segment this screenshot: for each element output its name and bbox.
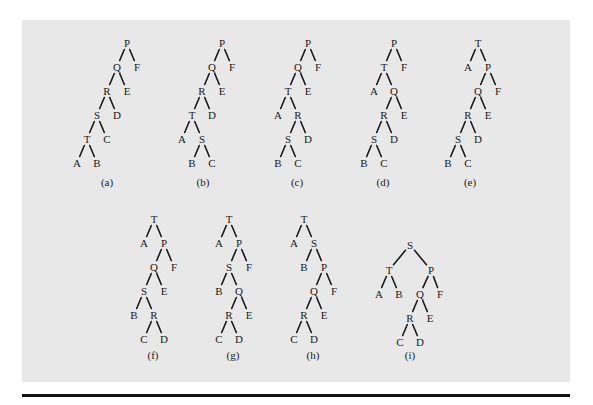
tree-node-S: S (407, 239, 413, 251)
tree-edge (157, 321, 162, 332)
tree-edge (317, 249, 322, 260)
tree-edge (367, 145, 372, 156)
tree-node-E: E (161, 285, 168, 297)
tree-node-D: D (416, 336, 424, 348)
tree-node-D: D (310, 333, 318, 345)
tree-edge (471, 97, 476, 108)
tree-node-F: F (495, 85, 501, 97)
tree-edge (382, 276, 387, 287)
tree-node-R: R (300, 309, 308, 321)
tree-node-P: P (161, 237, 167, 249)
tree-edge (461, 145, 466, 156)
tree-edge (491, 73, 496, 84)
tree-node-Q: Q (416, 288, 424, 300)
tree-node-E: E (246, 309, 253, 321)
tree-edge (232, 321, 237, 332)
tree-edge (225, 49, 230, 60)
tree-node-R: R (294, 109, 302, 121)
tree-node-F: F (437, 288, 443, 300)
tree-node-A: A (178, 133, 186, 145)
tree-edge (451, 145, 456, 156)
tree-edge (100, 121, 105, 132)
tree-edge (481, 49, 486, 60)
tree-node-P: P (219, 37, 225, 49)
tree-edge (147, 297, 152, 308)
tree-edge (397, 97, 402, 108)
tree-node-D: D (474, 133, 482, 145)
tree-edge (222, 321, 227, 332)
tree-edge (397, 49, 402, 60)
tree-edge (110, 73, 115, 84)
tree-edge (195, 145, 200, 156)
tree-edge (222, 273, 227, 284)
tree-edge (157, 249, 162, 260)
tree-node-C: C (140, 333, 147, 345)
tree-node-D: D (160, 333, 168, 345)
tree-node-D: D (304, 133, 312, 145)
tree-node-Q: Q (208, 61, 216, 73)
tree-node-S: S (285, 133, 291, 145)
tree-edge (413, 324, 418, 335)
tree-node-R: R (406, 312, 414, 324)
tree-node-E: E (401, 109, 408, 121)
tree-node-A: A (370, 85, 378, 97)
tree-edge (157, 273, 162, 284)
tree-caption: (e) (464, 176, 477, 189)
tree-edge (394, 250, 406, 264)
tree-c: PQFTEARSDBC(c) (274, 37, 321, 189)
tree-edge (297, 321, 302, 332)
tree-edge (291, 73, 296, 84)
tree-node-S: S (455, 133, 461, 145)
tree-edge (403, 324, 408, 335)
tree-g: TAPSFBQRECD(g) (215, 213, 253, 362)
tree-node-C: C (215, 333, 222, 345)
tree-edge (147, 225, 152, 236)
tree-node-E: E (124, 85, 131, 97)
tree-edge (232, 249, 237, 260)
tree-edge (80, 145, 85, 156)
tree-node-B: B (395, 288, 402, 300)
tree-caption: (h) (307, 349, 320, 362)
tree-edge (281, 145, 286, 156)
tree-edge (100, 97, 105, 108)
tree-edge (387, 121, 392, 132)
tree-edge (215, 49, 220, 60)
tree-edge (195, 97, 200, 108)
tree-edge (157, 225, 162, 236)
tree-node-S: S (311, 237, 317, 249)
tree-node-A: A (464, 61, 472, 73)
tree-node-P: P (485, 61, 491, 73)
tree-caption: (i) (405, 349, 416, 362)
tree-node-Q: Q (390, 85, 398, 97)
tree-edge (311, 49, 316, 60)
tree-edge (387, 73, 392, 84)
tree-node-T: T (226, 213, 233, 225)
tree-node-Q: Q (150, 261, 158, 273)
tree-node-S: S (141, 285, 147, 297)
tree-node-P: P (391, 37, 397, 49)
tree-edge (471, 49, 476, 60)
tree-node-C: C (396, 336, 403, 348)
tree-edge (377, 121, 382, 132)
tree-edge (291, 121, 296, 132)
tree-edge (195, 121, 200, 132)
tree-node-F: F (331, 285, 337, 297)
tree-a: PQFRESDTCAB(a) (73, 37, 140, 189)
tree-node-B: B (130, 309, 137, 321)
tree-node-F: F (229, 61, 235, 73)
tree-edge (301, 121, 306, 132)
tree-node-C: C (103, 133, 110, 145)
tree-edge (317, 273, 322, 284)
tree-edge (291, 97, 296, 108)
tree-node-Q: Q (310, 285, 318, 297)
tree-caption: (d) (377, 176, 390, 189)
tree-caption: (f) (148, 349, 159, 362)
tree-node-R: R (150, 309, 158, 321)
tree-f: TAPQFSEBRCD(f) (130, 213, 177, 362)
tree-node-A: A (73, 157, 81, 169)
tree-edge (307, 225, 312, 236)
tree-edge (215, 73, 220, 84)
tree-node-S: S (94, 109, 100, 121)
tree-edge (423, 300, 428, 311)
tree-edge (433, 277, 437, 288)
